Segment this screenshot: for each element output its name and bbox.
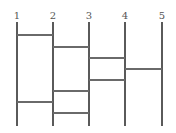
rung [89, 79, 125, 81]
rung [17, 34, 53, 36]
rung [125, 68, 162, 70]
line-label-4: 4 [119, 10, 131, 22]
line-label-5: 5 [156, 10, 168, 22]
line-label-2: 2 [47, 10, 59, 22]
vertical-line-5 [161, 22, 163, 126]
rung [53, 112, 89, 114]
line-label-3: 3 [83, 10, 95, 22]
rung [17, 101, 53, 103]
rung [53, 46, 89, 48]
rung [89, 57, 125, 59]
vertical-line-1 [16, 22, 18, 126]
vertical-line-4 [124, 22, 126, 126]
vertical-line-3 [88, 22, 90, 126]
ladder-diagram: 1 2 3 4 5 [0, 0, 176, 133]
rung [53, 90, 89, 92]
vertical-line-2 [52, 22, 54, 126]
line-label-1: 1 [11, 10, 23, 22]
